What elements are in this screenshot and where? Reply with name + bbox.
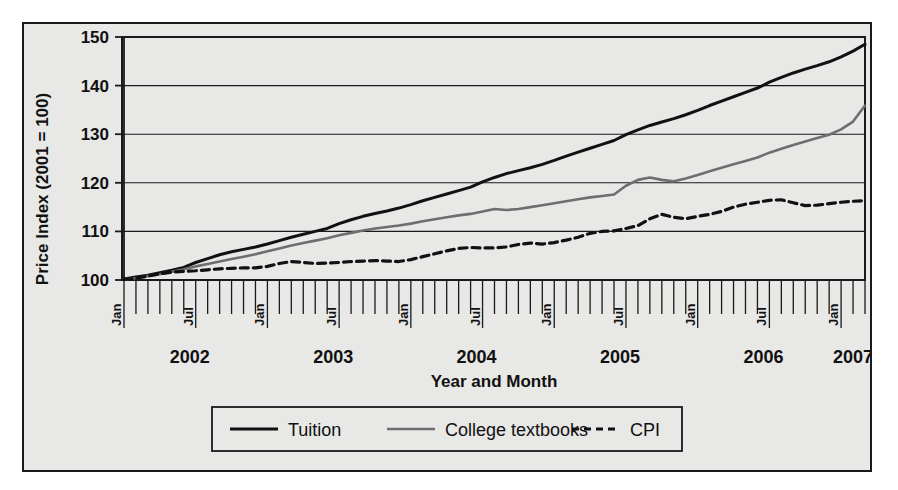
x-month-label: Jan xyxy=(252,304,267,326)
y-tick-label: 140 xyxy=(81,77,109,96)
x-year-label: 2003 xyxy=(313,347,353,367)
x-month-label: Jul xyxy=(754,307,769,326)
series-line-tuition xyxy=(124,44,865,279)
x-month-label: Jan xyxy=(539,304,554,326)
series-line-cpi xyxy=(124,200,865,280)
legend: TuitionCollege textbooksCPI xyxy=(212,407,682,451)
x-month-label: Jan xyxy=(826,304,841,326)
x-axis-year-labels: 200220032004200520062007 xyxy=(170,347,870,367)
series-line-college-textbooks xyxy=(124,106,865,280)
y-tick-label: 150 xyxy=(81,28,109,47)
x-month-label: Jan xyxy=(109,304,124,326)
x-month-label: Jul xyxy=(468,307,483,326)
x-month-label: Jul xyxy=(324,307,339,326)
y-tick-label: 130 xyxy=(81,125,109,144)
x-axis-month-labels: JanJulJanJulJanJulJanJulJanJulJan xyxy=(109,304,841,326)
x-month-label: Jul xyxy=(611,307,626,326)
x-month-label: Jan xyxy=(396,304,411,326)
y-axis-title: Price Index (2001 = 100) xyxy=(33,93,52,285)
y-tick-label: 120 xyxy=(81,174,109,193)
y-axis-title-text: Price Index (2001 = 100) xyxy=(33,93,52,285)
x-year-label: 2006 xyxy=(743,347,783,367)
x-year-label: 2004 xyxy=(457,347,497,367)
legend-label-cpi: CPI xyxy=(630,420,660,440)
legend-label-college-textbooks: College textbooks xyxy=(445,420,588,440)
x-year-label: 2007 xyxy=(833,347,870,367)
chart-figure: Price Index (2001 = 100) 100110120130140… xyxy=(0,0,898,490)
legend-label-tuition: Tuition xyxy=(288,420,341,440)
chart-frame: Price Index (2001 = 100) 100110120130140… xyxy=(22,22,872,472)
x-year-label: 2005 xyxy=(600,347,640,367)
data-series xyxy=(124,44,865,279)
x-month-label: Jan xyxy=(683,304,698,326)
y-tick-label: 110 xyxy=(82,222,109,241)
y-tick-label: 100 xyxy=(81,271,109,290)
x-month-label: Jul xyxy=(181,307,196,326)
line-chart: Price Index (2001 = 100) 100110120130140… xyxy=(24,24,870,470)
y-axis-ticks: 100110120130140150 xyxy=(81,28,124,290)
x-year-label: 2002 xyxy=(170,347,210,367)
x-axis-title: Year and Month xyxy=(431,372,558,391)
